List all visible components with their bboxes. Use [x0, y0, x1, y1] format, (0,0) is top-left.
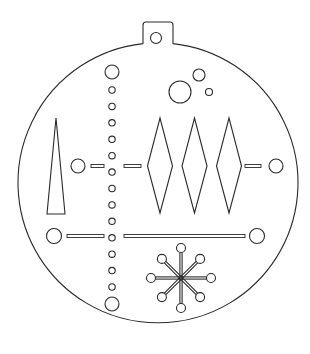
dot-column-top-circle	[105, 65, 119, 79]
dot-column-dot	[109, 185, 115, 191]
snowflake-knob	[157, 254, 166, 263]
dot-column-dot	[109, 153, 115, 159]
dot-column-dot	[109, 87, 115, 93]
slot-center-mid	[124, 165, 141, 168]
slot-long-low	[124, 235, 245, 238]
ornament-outline	[18, 22, 298, 323]
bubble-large	[169, 81, 191, 103]
snowflake-knob	[157, 293, 166, 302]
dot-column-dot	[109, 235, 115, 241]
dot-column-dot	[109, 202, 115, 208]
right-low-circle	[250, 229, 265, 244]
dot-column-dot	[109, 103, 115, 109]
left-low-circle	[47, 229, 62, 244]
slot-right-mid	[245, 165, 261, 168]
dot-column-dot	[109, 218, 115, 224]
diamond-2	[182, 118, 207, 213]
ornament-drawing	[0, 0, 310, 354]
dot-column-dot	[109, 136, 115, 142]
bubble-medium	[193, 69, 205, 81]
triangle-shape	[47, 118, 65, 214]
diamond-3	[217, 118, 242, 213]
dot-column-dot	[109, 284, 115, 290]
snowflake-knob	[207, 274, 216, 283]
snowflake-knob	[177, 244, 186, 253]
snowflake-knob	[196, 293, 205, 302]
dot-column	[105, 65, 119, 311]
ornament-template: Christmas ornament cut-out template	[0, 0, 310, 354]
snowflake	[147, 244, 216, 313]
bubble-small	[206, 89, 213, 96]
snowflake-knob	[147, 274, 156, 283]
hanger-hole	[151, 33, 162, 44]
left-mid-circle	[71, 159, 85, 173]
diamond-1	[148, 118, 173, 213]
right-mid-circle	[269, 159, 283, 173]
dot-column-dot	[109, 251, 115, 257]
slot-left-mid	[91, 165, 104, 168]
slot-left-low	[67, 235, 104, 238]
dot-column-bottom-circle	[105, 297, 119, 311]
snowflake-knob	[196, 254, 205, 263]
dot-column-dot	[109, 169, 115, 175]
dot-column-dot	[109, 267, 115, 273]
dot-column-dot	[109, 120, 115, 126]
snowflake-knob	[177, 304, 186, 313]
